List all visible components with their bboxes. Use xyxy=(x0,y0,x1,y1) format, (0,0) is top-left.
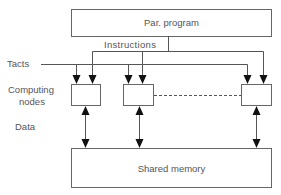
computing-nodes-label-line1: Computing xyxy=(8,84,54,95)
computing-node-n xyxy=(242,85,272,106)
data-label: Data xyxy=(15,121,35,132)
shared-memory-label: Shared memory xyxy=(71,163,272,174)
arrowheads-down xyxy=(73,75,268,84)
computing-nodes-label-line2: nodes xyxy=(19,96,45,107)
computing-node-1 xyxy=(72,85,101,106)
computing-node-2 xyxy=(124,85,154,106)
arrowheads-data xyxy=(82,106,261,148)
tacts-label: Tacts xyxy=(7,58,29,69)
instructions-label: Instructions xyxy=(104,39,156,50)
program-box-label: Par. program xyxy=(71,17,272,28)
